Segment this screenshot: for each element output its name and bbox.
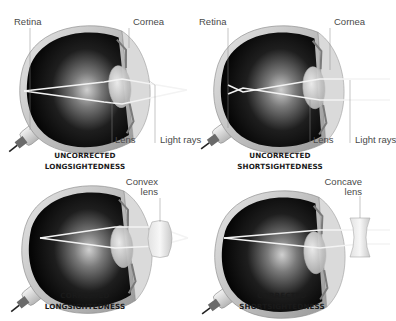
title-line-1: UNCORRECTED	[232, 150, 328, 161]
label-lens: Lens	[115, 135, 136, 145]
label-line-2: lens	[318, 187, 362, 197]
panel-title-uncorrected-longsightedness: UNCORRECTED LONGSIGHTEDNESS	[40, 150, 130, 172]
label-light-rays: Light rays	[160, 135, 201, 145]
panel-title-corrected-shortsightedness: CORRECTED SHORTSIGHTEDNESS	[234, 290, 330, 312]
label-retina: Retina	[14, 17, 41, 27]
title-line-1: UNCORRECTED	[40, 150, 130, 161]
convex-lens-shape	[148, 221, 172, 258]
title-line-1: CORRECTED	[40, 290, 130, 301]
title-line-1: CORRECTED	[234, 290, 330, 301]
label-lens: Lens	[313, 135, 334, 145]
label-light-rays: Light rays	[355, 135, 396, 145]
label-line-2: lens	[120, 187, 158, 197]
panel-title-uncorrected-shortsightedness: UNCORRECTED SHORTSIGHTEDNESS	[232, 150, 328, 172]
panel-title-corrected-longsightedness: CORRECTED LONGSIGHTEDNESS	[40, 290, 130, 312]
title-line-2: SHORTSIGHTEDNESS	[234, 301, 330, 312]
label-cornea: Cornea	[334, 17, 365, 27]
label-convex-lens: Convex lens	[120, 177, 158, 197]
concave-lens-shape	[350, 218, 370, 257]
label-concave-lens: Concave lens	[318, 177, 362, 197]
label-cornea: Cornea	[133, 17, 164, 27]
title-line-2: SHORTSIGHTEDNESS	[232, 161, 328, 172]
title-line-2: LONGSIGHTEDNESS	[40, 301, 130, 312]
label-retina: Retina	[199, 17, 226, 27]
title-line-2: LONGSIGHTEDNESS	[40, 161, 130, 172]
